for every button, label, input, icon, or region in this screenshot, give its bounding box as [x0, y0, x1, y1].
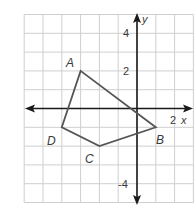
x-axis-label: x	[180, 114, 187, 126]
x-tick-2: 2	[170, 114, 176, 126]
vertex-label-C: C	[85, 152, 94, 166]
y-tick-2: 2	[123, 65, 129, 77]
y-tick-neg4: -4	[118, 178, 128, 190]
coordinate-plane: y x 4 2 -4 2 A B C D	[0, 0, 196, 222]
vertex-label-D: D	[47, 134, 56, 148]
y-tick-4: 4	[123, 27, 129, 39]
vertex-label-B: B	[156, 133, 164, 147]
labels: y x 4 2 -4 2 A B C D	[47, 13, 187, 190]
axes	[25, 13, 193, 205]
vertex-label-A: A	[65, 56, 74, 70]
